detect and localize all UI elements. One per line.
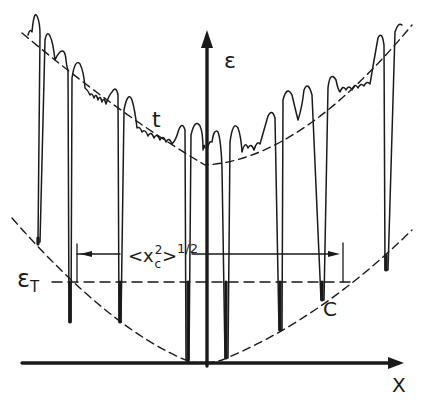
threshold-label-main: ε [17, 265, 30, 293]
x-axis-label: X [392, 373, 406, 397]
envelope-t-label: t [152, 107, 161, 132]
point-c-label: C [323, 297, 337, 321]
energy-well-diagram: ε X t C εT <x2c>1/2 [0, 0, 422, 402]
potential-curve-right [207, 24, 402, 358]
width-label-close: > [162, 245, 177, 266]
threshold-label-sub: T [29, 278, 40, 296]
epsilon-axis-label: ε [224, 48, 236, 73]
epsilon-axis-arrowhead [201, 30, 213, 48]
right-arrowhead [328, 251, 340, 257]
threshold-label: εT [17, 265, 40, 296]
width-label-open: <x [128, 245, 154, 266]
width-label-sub: c [154, 257, 161, 271]
width-label: <x2c>1/2 [128, 241, 198, 271]
upper-envelope-dashed-curve [22, 25, 412, 165]
potential-curve-left [28, 15, 205, 360]
diagram-canvas: ε X t C εT <x2c>1/2 [0, 0, 422, 402]
x-axis-arrowhead [388, 357, 404, 369]
left-arrowhead [80, 251, 92, 257]
width-indicator [77, 243, 343, 282]
width-label-exp: 1/2 [177, 241, 198, 256]
